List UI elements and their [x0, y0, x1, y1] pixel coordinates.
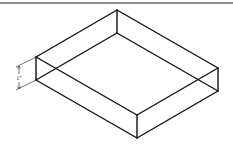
isometric-box-drawing: 1"	[0, 0, 233, 146]
edge-top-front-left	[36, 57, 137, 115]
edge-top-front-right	[137, 68, 218, 115]
dimension-label: 1"	[16, 75, 22, 81]
height-dimension: 1"	[16, 57, 36, 90]
box-bottom-face	[36, 33, 218, 138]
edge-bottom-back-left	[36, 33, 117, 80]
box-top-face	[36, 10, 218, 115]
edge-bottom-front-right	[137, 91, 218, 138]
edge-top-back-right	[117, 10, 218, 68]
edge-bottom-back-right	[117, 33, 218, 91]
box-vertical-edges	[36, 10, 218, 138]
edge-bottom-front-left	[36, 80, 137, 138]
edge-top-back-left	[36, 10, 117, 57]
